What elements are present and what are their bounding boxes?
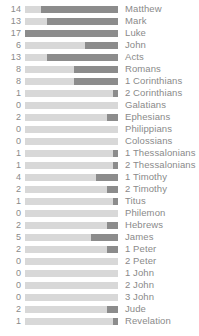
bar-category-label: Titus [125, 196, 199, 206]
bar-category-label: 1 Timothy [125, 172, 199, 182]
bar-category-label: 2 Timothy [125, 184, 199, 194]
chart-row: 1Titus [0, 195, 199, 207]
bar-segment [74, 78, 118, 85]
bar-track [25, 102, 118, 109]
bar-track [25, 18, 118, 25]
bar-track [25, 186, 118, 193]
bar-value-label: 17 [0, 29, 21, 38]
bar-category-label: 1 John [125, 268, 199, 278]
chart-row: 03 John [0, 291, 199, 303]
chart-row: 0Galatians [0, 99, 199, 111]
bar-value-label: 0 [0, 209, 21, 218]
bar-category-label: Philemon [125, 208, 199, 218]
bar-track [25, 318, 118, 325]
bar-track [25, 258, 118, 265]
bar-track [25, 114, 118, 121]
bar-value-label: 0 [0, 137, 21, 146]
bar-category-label: 1 Thessalonians [125, 148, 199, 158]
bar-category-label: Romans [125, 64, 199, 74]
bar-category-label: Colossians [125, 136, 199, 146]
bar-category-label: John [125, 40, 199, 50]
bar-track [25, 126, 118, 133]
chart-row: 6John [0, 39, 199, 51]
bar-value-label: 1 [0, 149, 21, 158]
bar-category-label: Acts [125, 52, 199, 62]
bar-segment [113, 318, 118, 325]
chart-row: 8Romans [0, 63, 199, 75]
chart-row: 22 Timothy [0, 183, 199, 195]
bar-track [25, 162, 118, 169]
bar-category-label: 1 Corinthians [125, 76, 199, 86]
chart-row: 41 Timothy [0, 171, 199, 183]
bar-value-label: 0 [0, 281, 21, 290]
chart-row: 0Philippians [0, 123, 199, 135]
bar-value-label: 0 [0, 293, 21, 302]
chart-row: 11 Thessalonians [0, 147, 199, 159]
bar-chart: 14Matthew13Mark17Luke6John13Acts8Romans8… [0, 0, 199, 336]
bar-category-label: Galatians [125, 100, 199, 110]
bar-value-label: 4 [0, 173, 21, 182]
bar-value-label: 2 [0, 113, 21, 122]
bar-segment [47, 18, 118, 25]
bar-segment [107, 114, 118, 121]
chart-row: 17Luke [0, 27, 199, 39]
bar-value-label: 2 [0, 245, 21, 254]
bar-segment [113, 198, 118, 205]
bar-track [25, 138, 118, 145]
bar-track [25, 198, 118, 205]
bar-category-label: Ephesians [125, 112, 199, 122]
bar-value-label: 1 [0, 161, 21, 170]
bar-track [25, 30, 118, 37]
bar-category-label: Mark [125, 16, 199, 26]
bar-value-label: 0 [0, 257, 21, 266]
bar-value-label: 13 [0, 17, 21, 26]
bar-category-label: 1 Peter [125, 244, 199, 254]
bar-category-label: 3 John [125, 292, 199, 302]
bar-value-label: 13 [0, 53, 21, 62]
bar-category-label: 2 Thessalonians [125, 160, 199, 170]
bar-segment [91, 234, 118, 241]
bar-segment [47, 54, 118, 61]
chart-row: 81 Corinthians [0, 75, 199, 87]
bar-track [25, 306, 118, 313]
bar-category-label: Revelation [125, 316, 199, 326]
bar-category-label: Philippians [125, 124, 199, 134]
chart-row: 2Hebrews [0, 219, 199, 231]
bar-track [25, 282, 118, 289]
chart-row: 01 John [0, 267, 199, 279]
bar-category-label: Jude [125, 304, 199, 314]
bar-value-label: 6 [0, 41, 21, 50]
bar-track [25, 90, 118, 97]
bar-track [25, 294, 118, 301]
bar-segment [107, 186, 118, 193]
bar-segment [113, 150, 118, 157]
bar-value-label: 0 [0, 101, 21, 110]
chart-row: 13Acts [0, 51, 199, 63]
bar-value-label: 0 [0, 269, 21, 278]
bar-category-label: Matthew [125, 4, 199, 14]
chart-row: 2Jude [0, 303, 199, 315]
bar-track [25, 222, 118, 229]
chart-row: 02 John [0, 279, 199, 291]
bar-segment [107, 246, 118, 253]
bar-track [25, 54, 118, 61]
bar-track [25, 66, 118, 73]
bar-value-label: 2 [0, 221, 21, 230]
chart-row: 0Colossians [0, 135, 199, 147]
bar-track [25, 174, 118, 181]
bar-track [25, 270, 118, 277]
bar-value-label: 8 [0, 77, 21, 86]
bar-value-label: 5 [0, 233, 21, 242]
bar-track [25, 42, 118, 49]
bar-value-label: 14 [0, 5, 21, 14]
bar-category-label: 2 Peter [125, 256, 199, 266]
bar-track [25, 234, 118, 241]
bar-value-label: 2 [0, 305, 21, 314]
bar-segment [96, 174, 118, 181]
bar-track [25, 150, 118, 157]
bar-track [25, 210, 118, 217]
bar-track [25, 246, 118, 253]
chart-row: 12 Thessalonians [0, 159, 199, 171]
chart-row: 21 Peter [0, 243, 199, 255]
bar-category-label: 2 Corinthians [125, 88, 199, 98]
